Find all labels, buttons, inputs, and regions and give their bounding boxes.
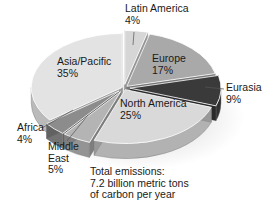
label-europe: Europe 17% (152, 53, 186, 76)
note-line-3: of carbon per year (90, 189, 189, 201)
label-asia-pacific: Asia/Pacific 35% (57, 56, 111, 79)
label-africa-pct: 4% (17, 134, 44, 146)
label-middle-east-pct: 5% (48, 164, 79, 176)
label-europe-name: Europe (152, 53, 186, 65)
label-eurasia-pct: 9% (226, 94, 262, 106)
label-middle-east-name: Middle (48, 141, 79, 153)
label-europe-pct: 17% (152, 65, 186, 77)
total-emissions-note: Total emissions: 7.2 billion metric tons… (90, 166, 189, 201)
label-latin-america: Latin America 4% (125, 3, 189, 26)
label-north-america: North America 25% (120, 98, 187, 121)
label-asia-pacific-name: Asia/Pacific (57, 56, 111, 68)
label-eurasia: Eurasia 9% (226, 82, 262, 105)
label-north-america-name: North America (120, 98, 187, 110)
label-africa-name: Africa (17, 122, 44, 134)
label-africa: Africa 4% (17, 122, 44, 145)
label-asia-pacific-pct: 35% (57, 68, 111, 80)
label-latin-america-name: Latin America (125, 3, 189, 15)
label-north-america-pct: 25% (120, 110, 187, 122)
label-eurasia-name: Eurasia (226, 82, 262, 94)
note-line-1: Total emissions: (90, 166, 189, 178)
label-middle-east: Middle East 5% (48, 141, 79, 176)
label-latin-america-pct: 4% (125, 15, 189, 27)
